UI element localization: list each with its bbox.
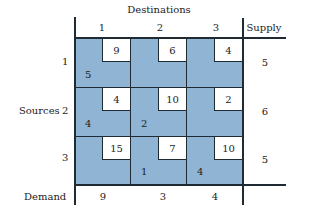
destination-label-1: 1 [99, 22, 105, 34]
destination-label-3: 3 [213, 22, 219, 34]
demand-label: Demand [24, 191, 66, 203]
destinations-title: Destinations [127, 4, 191, 16]
source-label-1: 1 [62, 56, 68, 68]
supply-3: 5 [262, 154, 268, 166]
cost-3-1: 15 [102, 136, 131, 160]
right-axis-line [242, 18, 244, 205]
cell-3-2: 7 1 [130, 136, 187, 185]
left-axis-line [74, 17, 76, 205]
cell-2-2: 10 2 [130, 87, 187, 137]
sources-label: Sources [19, 105, 60, 117]
cost-2-2: 10 [158, 87, 187, 111]
top-axis-line [74, 37, 286, 39]
destination-label-2: 2 [157, 22, 163, 34]
cell-2-3: 2 [186, 87, 243, 137]
cell-2-1: 4 4 [74, 87, 131, 137]
demand-2: 3 [160, 191, 166, 203]
supply-header: Supply [247, 22, 282, 34]
cell-3-3: 10 4 [186, 136, 243, 185]
cost-1-2: 6 [158, 38, 187, 62]
cost-2-3: 2 [214, 87, 243, 111]
cost-3-3: 10 [214, 136, 243, 160]
cost-3-2: 7 [158, 136, 187, 160]
supply-2: 6 [262, 106, 268, 118]
supply-1: 5 [262, 57, 268, 69]
cost-2-1: 4 [102, 87, 131, 111]
demand-1: 9 [100, 191, 106, 203]
cost-1-1: 9 [102, 38, 131, 62]
cost-1-3: 4 [214, 38, 243, 62]
transportation-grid: 9 5 6 4 4 4 10 2 2 15 7 1 10 4 [74, 38, 243, 185]
cell-1-3: 4 [186, 38, 243, 88]
cell-3-1: 15 [74, 136, 131, 185]
bottom-axis-line [74, 184, 286, 186]
alloc-2-2: 2 [141, 118, 147, 129]
source-label-2: 2 [62, 105, 68, 117]
alloc-3-3: 4 [197, 166, 203, 177]
alloc-3-2: 1 [141, 166, 147, 177]
cell-1-2: 6 [130, 38, 187, 88]
alloc-1-1: 5 [85, 69, 91, 80]
demand-3: 4 [212, 191, 218, 203]
alloc-2-1: 4 [85, 118, 91, 129]
cell-1-1: 9 5 [74, 38, 131, 88]
source-label-3: 3 [62, 152, 68, 164]
